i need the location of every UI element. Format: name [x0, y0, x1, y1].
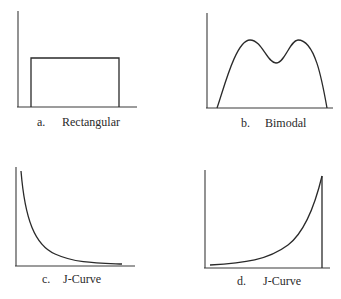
- distribution-shapes-figure: [0, 0, 341, 299]
- decreasing-j-curve: [21, 171, 122, 264]
- panel-c-title: J-Curve: [63, 273, 101, 285]
- rectangular-distribution: [31, 58, 119, 107]
- panel-c-letter: c.: [42, 273, 50, 285]
- panel-b-title: Bimodal: [265, 117, 306, 129]
- panel-b-bimodal: [206, 13, 333, 108]
- panel-d-letter: d.: [237, 275, 246, 287]
- panel-a-letter: a.: [37, 116, 45, 128]
- panel-a-rectangular: [17, 11, 137, 107]
- panel-d-j-curve: [204, 170, 330, 268]
- panel-c-j-curve: [15, 167, 135, 266]
- bimodal-distribution: [217, 40, 327, 108]
- panel-a-title: Rectangular: [62, 116, 120, 128]
- increasing-j-curve: [210, 176, 322, 265]
- panel-d-title: J-Curve: [263, 275, 301, 287]
- panel-b-letter: b.: [241, 117, 250, 129]
